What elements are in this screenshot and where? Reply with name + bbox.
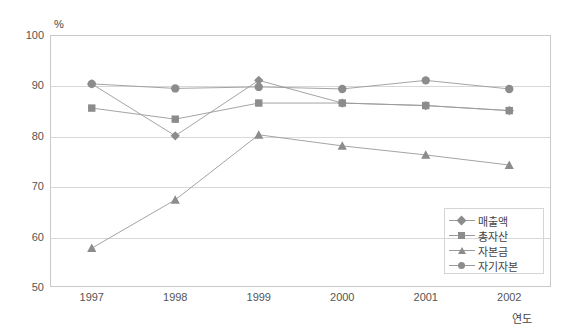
y-axis-unit-label: %: [54, 18, 64, 30]
gridline: [51, 86, 550, 87]
y-axis-ticks: 1009080706050: [0, 35, 44, 287]
y-tick-label: 80: [4, 130, 44, 142]
legend-triangle-icon: [449, 245, 475, 257]
legend-marker: [458, 232, 465, 239]
legend-marker: [458, 262, 465, 269]
gridline: [51, 137, 550, 138]
legend-label: 자기자본: [478, 258, 518, 274]
legend-item[interactable]: 자기자본: [449, 258, 518, 273]
legend-circle-icon: [449, 260, 475, 272]
y-tick-label: 50: [4, 281, 44, 293]
y-tick-label: 60: [4, 231, 44, 243]
y-tick-label: 90: [4, 79, 44, 91]
legend-label: 자본금: [478, 243, 508, 259]
x-tick-label: 1998: [163, 291, 187, 303]
x-tick-label: 2000: [330, 291, 354, 303]
legend-square-icon: [449, 230, 475, 242]
gridline: [51, 187, 550, 188]
legend-diamond-icon: [449, 215, 475, 227]
x-axis-title: 연도: [512, 310, 532, 326]
x-axis-ticks: 199719981999200020012002: [50, 291, 551, 311]
legend-marker: [457, 215, 467, 225]
legend-item[interactable]: 자본금: [449, 243, 508, 258]
y-tick-label: 70: [4, 180, 44, 192]
x-tick-label: 1999: [247, 291, 271, 303]
x-tick-label: 2001: [414, 291, 438, 303]
legend-label: 매출액: [478, 213, 508, 229]
legend-label: 총자산: [478, 228, 508, 244]
legend-item[interactable]: 매출액: [449, 213, 508, 228]
legend: 매출액총자산자본금자기자본: [444, 208, 544, 274]
legend-item[interactable]: 총자산: [449, 228, 508, 243]
legend-marker: [458, 247, 466, 254]
x-tick-label: 1997: [80, 291, 104, 303]
x-tick-label: 2002: [497, 291, 521, 303]
y-tick-label: 100: [4, 29, 44, 41]
line-chart: % 1009080706050 199719981999200020012002…: [0, 0, 566, 335]
